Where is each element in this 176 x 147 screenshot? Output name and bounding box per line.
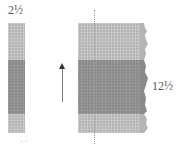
right-block [78, 23, 144, 133]
arrow-up-icon [59, 63, 65, 69]
arrow-shaft [62, 68, 63, 102]
left-bar-middle-section [8, 60, 25, 114]
torn-edge [140, 23, 152, 133]
right-block-label: 12½ [152, 80, 173, 92]
left-bar-bottom-section [8, 114, 25, 133]
dotted-center-line [94, 10, 95, 144]
left-bar-top-section [8, 23, 25, 60]
left-bar-label: 2½ [8, 4, 23, 16]
left-bar [8, 23, 25, 133]
right-block-bottom-section [78, 114, 144, 133]
right-block-top-section [78, 23, 144, 60]
bottom-marks: · · [20, 136, 27, 147]
right-block-middle-section [78, 60, 144, 114]
